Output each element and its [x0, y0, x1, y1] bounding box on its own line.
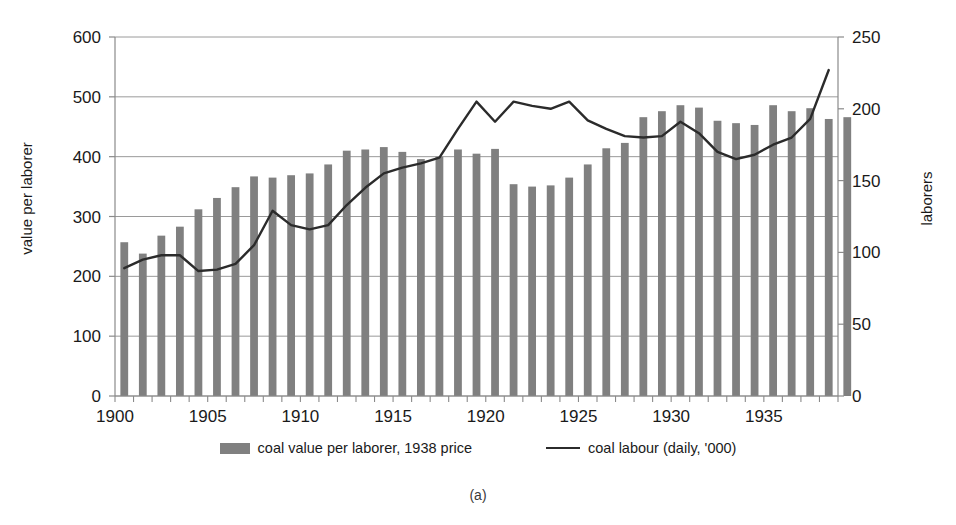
bar [176, 227, 184, 396]
bar [825, 119, 833, 396]
figure-caption: (a) [0, 487, 956, 503]
right-tick-label: 250 [852, 28, 880, 47]
bar [806, 108, 814, 396]
bar [602, 148, 610, 396]
right-axis-title: laborers [918, 129, 935, 269]
bar [324, 164, 332, 396]
bar [677, 105, 685, 396]
right-tick-label: 50 [852, 315, 871, 334]
x-tick-label: 1905 [189, 407, 227, 426]
right-axis-tick-labels: 050100150200250 [852, 28, 880, 406]
bar [473, 154, 481, 396]
bar [639, 117, 647, 396]
right-tick-label: 150 [852, 172, 880, 191]
x-tick-label: 1935 [745, 407, 783, 426]
bar [547, 185, 555, 396]
bar [714, 121, 722, 396]
left-tick-label: 200 [73, 267, 101, 286]
bar [306, 173, 314, 396]
right-tick-label: 200 [852, 100, 880, 119]
x-axis-tick-labels: 19001905191019151920192519301935 [96, 407, 783, 426]
bar [528, 187, 536, 396]
bar [232, 187, 240, 396]
left-tick-label: 300 [73, 208, 101, 227]
x-tick-label: 1920 [467, 407, 505, 426]
bar [658, 111, 666, 396]
bar [751, 125, 759, 396]
bar [195, 209, 203, 396]
bar [695, 108, 703, 396]
legend-item-bar: coal value per laborer, 1938 price [220, 440, 472, 456]
legend-label-line: coal labour (daily, '000) [588, 440, 736, 456]
bar [621, 143, 629, 396]
x-tick-label: 1925 [560, 407, 598, 426]
bar [454, 149, 462, 396]
bar [343, 151, 351, 396]
right-tick-label: 0 [852, 387, 861, 406]
left-tick-label: 600 [73, 28, 101, 47]
left-tick-label: 0 [92, 387, 101, 406]
bar [843, 117, 851, 396]
chart-legend: coal value per laborer, 1938 price coal … [0, 440, 956, 456]
bar [491, 149, 499, 396]
legend-line-swatch-icon [546, 447, 580, 449]
left-axis-tick-labels: 0100200300400500600 [73, 28, 101, 406]
legend-bar-swatch-icon [220, 443, 250, 454]
x-tick-label: 1930 [652, 407, 690, 426]
legend-label-bar: coal value per laborer, 1938 price [258, 440, 472, 456]
bar [287, 175, 295, 396]
bar [417, 159, 425, 396]
bar [584, 164, 592, 396]
legend-item-line: coal labour (daily, '000) [546, 440, 736, 456]
bar [436, 157, 444, 396]
left-tick-label: 500 [73, 88, 101, 107]
bar [139, 254, 147, 396]
chart-figure: 0100200300400500600 050100150200250 1900… [0, 0, 956, 525]
bar-series [120, 105, 851, 396]
left-tick-label: 400 [73, 148, 101, 167]
bar [120, 242, 128, 396]
bar [213, 198, 221, 396]
bar [510, 184, 518, 396]
bar [380, 147, 388, 396]
bar [250, 176, 258, 396]
bar [398, 152, 406, 396]
bar [565, 178, 573, 396]
left-tick-label: 100 [73, 327, 101, 346]
bar [769, 105, 777, 396]
left-axis-title: value per laborer [18, 129, 35, 269]
x-tick-label: 1910 [281, 407, 319, 426]
bar [788, 111, 796, 396]
right-tick-label: 100 [852, 243, 880, 262]
x-tick-label: 1915 [374, 407, 412, 426]
x-tick-label: 1900 [96, 407, 134, 426]
bar [157, 236, 165, 396]
bar [732, 123, 740, 396]
